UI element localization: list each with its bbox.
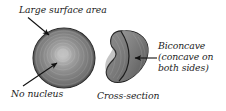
cell-central-pallor	[57, 49, 69, 60]
label-biconcave-line3: both sides)	[158, 62, 209, 73]
label-large-surface-area: Large surface area	[19, 4, 107, 15]
label-biconcave-line1: Biconcave	[158, 40, 205, 51]
label-cross-section: Cross-section	[97, 90, 159, 101]
label-no-nucleus: No nucleus	[11, 88, 63, 99]
label-biconcave-line2: (concave on	[158, 51, 213, 62]
red-blood-cell-cross-section	[105, 31, 148, 83]
label-biconcave: Biconcave (concave on both sides)	[158, 40, 226, 74]
large-surface-area-arrow	[28, 18, 49, 36]
red-blood-cell-diagram: Large surface area No nucleus Cross-sect…	[0, 0, 226, 111]
red-blood-cell-face-view	[33, 28, 95, 88]
